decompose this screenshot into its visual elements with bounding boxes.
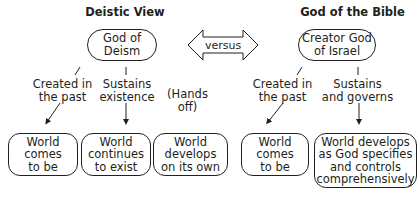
arrow-deism-created [47, 103, 60, 122]
israel-sustains-label: Sustains and governs [320, 78, 395, 104]
hands-off-label: (Hands off) [160, 88, 215, 114]
deism-outcome-comes-to-be: World comes to be [8, 133, 78, 176]
deism-created-label: Created in the past [30, 78, 95, 104]
israel-created-label: Created in the past [250, 78, 315, 104]
israel-outcome-comes-to-be: World comes to be [241, 133, 309, 176]
god-of-deism-node: God of Deism [87, 29, 157, 61]
arrow-israel-created [268, 103, 283, 122]
deism-sustains-label: Sustains existence [97, 78, 157, 104]
deism-outcome-develops: World develops on its own [153, 133, 228, 176]
deism-outcome-continues: World continues to exist [81, 133, 151, 176]
versus-label: versus [203, 39, 243, 52]
god-of-bible-heading: God of the Bible [290, 5, 415, 19]
line-israel-created [297, 67, 302, 75]
creator-god-node: Creator God of Israel [298, 29, 376, 61]
line-deism-created [75, 67, 80, 75]
deistic-view-heading: Deistic View [60, 5, 190, 19]
israel-outcome-develops: World develops as God specifies and cont… [314, 133, 417, 188]
